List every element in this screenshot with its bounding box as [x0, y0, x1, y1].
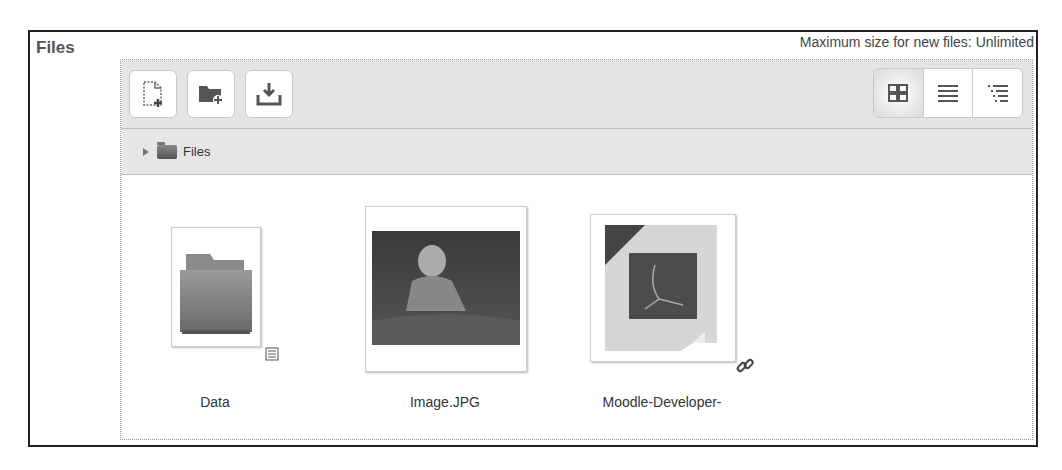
context-menu-icon[interactable]	[265, 347, 279, 361]
pdf-thumbnail[interactable]	[590, 214, 736, 362]
path-label[interactable]: Files	[183, 144, 210, 159]
folder-icon	[172, 228, 260, 346]
tree-list-icon	[987, 84, 1009, 102]
image-thumbnail[interactable]	[365, 206, 527, 372]
toolbar	[121, 60, 1032, 129]
image-preview	[372, 231, 520, 345]
max-size-text: Maximum size for new files: Unlimited	[800, 34, 1034, 50]
folder-thumbnail[interactable]	[171, 227, 261, 347]
path-bar: Files	[121, 129, 1032, 175]
grid-icon	[888, 84, 908, 102]
file-add-icon	[141, 80, 165, 108]
folder-add-icon	[198, 83, 224, 105]
download-button[interactable]	[245, 70, 293, 118]
expand-arrow-icon[interactable]	[143, 148, 149, 156]
add-file-button[interactable]	[129, 70, 177, 118]
section-label: Files	[36, 38, 75, 58]
link-icon	[735, 356, 755, 376]
pdf-icon	[591, 215, 735, 361]
create-folder-button[interactable]	[187, 70, 235, 118]
file-manager: Files Data Image.JPG Moodle-Developer-	[120, 59, 1033, 440]
download-icon	[256, 82, 282, 106]
file-name: Image.JPG	[355, 394, 535, 410]
tree-view-button[interactable]	[972, 69, 1022, 117]
view-switcher	[873, 68, 1023, 118]
icons-view-button[interactable]	[874, 69, 923, 117]
details-view-button[interactable]	[923, 69, 973, 117]
folder-icon	[157, 145, 177, 159]
file-name: Moodle-Developer-	[572, 394, 752, 410]
file-name: Data	[125, 394, 305, 410]
list-icon	[937, 84, 959, 102]
